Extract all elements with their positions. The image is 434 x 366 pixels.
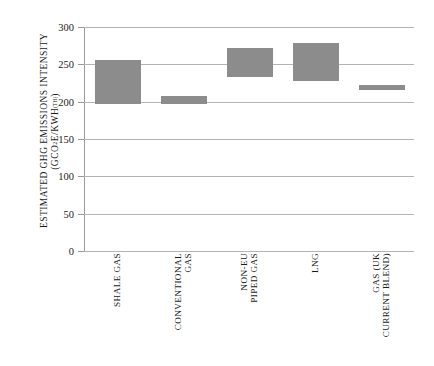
y-tick-label-150: 150 bbox=[38, 134, 74, 145]
chart-container: ESTIMATED GHG EMISSIONS INTENSITY (GCO2E… bbox=[0, 0, 434, 366]
x-axis-label-line: LNG bbox=[310, 253, 320, 273]
x-axis-label-line: SHALE GAS bbox=[112, 253, 122, 307]
y-tick-label-200: 200 bbox=[38, 96, 74, 107]
y-tick-label-100: 100 bbox=[38, 171, 74, 182]
bar-gas-uk-current-blend bbox=[359, 85, 405, 90]
y-tick-label-300: 300 bbox=[38, 22, 74, 33]
bar-non-eu-piped-gas bbox=[227, 48, 273, 77]
x-axis-label-line: NON-EU bbox=[239, 253, 249, 291]
y-tick-label-50: 50 bbox=[38, 208, 74, 219]
x-axis-label-line: CONVENTIONAL bbox=[173, 253, 183, 330]
bar-conventional-gas bbox=[161, 96, 207, 103]
bar-lng bbox=[293, 43, 339, 81]
y-tick-label-250: 250 bbox=[38, 59, 74, 70]
gridline-50 bbox=[84, 214, 414, 215]
gridline-0 bbox=[84, 251, 414, 252]
x-axis-label-line: GAS bbox=[183, 253, 193, 273]
x-axis-label-gas-uk-current-blend: GAS (UKCURRENT BLEND) bbox=[341, 253, 421, 366]
y-tick-label-0: 0 bbox=[38, 246, 74, 257]
gridline-150 bbox=[84, 139, 414, 140]
bar-shale-gas bbox=[95, 60, 141, 104]
x-axis-category-labels: SHALE GASCONVENTIONALGASNON-EUPIPED GASL… bbox=[84, 253, 414, 366]
gridline-300 bbox=[84, 27, 414, 28]
y-axis-tick-labels: 050100150200250300 bbox=[36, 0, 74, 366]
x-axis-label-line: GAS (UK bbox=[371, 253, 381, 293]
gridline-100 bbox=[84, 176, 414, 177]
x-axis-label-line: CURRENT BLEND) bbox=[381, 253, 391, 337]
plot-area bbox=[84, 27, 414, 251]
x-axis-label-line: PIPED GAS bbox=[249, 253, 259, 303]
